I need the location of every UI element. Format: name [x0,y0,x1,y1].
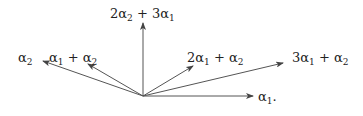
label-alpha2: α2 [18,51,33,67]
label-2alpha2-plus-3alpha1: 2α2 + 3α1 [110,7,175,23]
arrow-2alpha1-plus-alpha2 [143,66,193,96]
label-3alpha1-plus-alpha2: 3α1 + α2 [292,51,348,67]
label-2alpha1-plus-alpha2: 2α1 + α2 [187,51,243,67]
label-alpha1: α1. [258,90,277,106]
label-alpha1-plus-alpha2: α1 + α2 [49,51,97,67]
